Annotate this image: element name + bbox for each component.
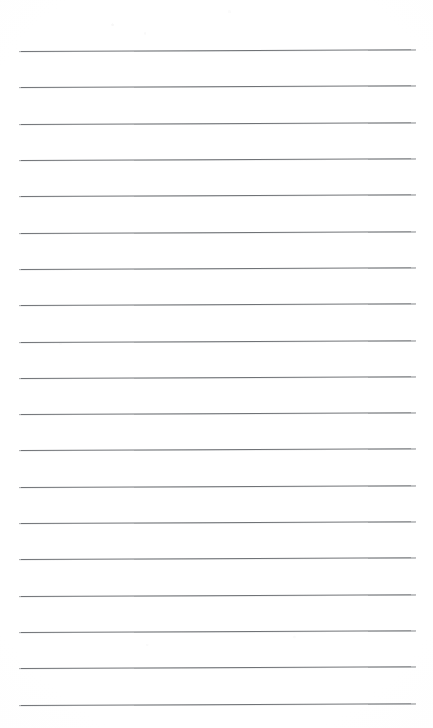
rule-line	[19, 485, 416, 488]
rule-line	[19, 231, 416, 234]
rule-line	[19, 703, 416, 706]
rule-line	[19, 667, 416, 670]
rule-line	[19, 340, 416, 343]
ruled-lines-group	[0, 0, 433, 728]
rule-line	[19, 630, 416, 633]
rule-line	[19, 86, 416, 89]
rule-line	[19, 122, 416, 125]
scanned-page	[0, 0, 433, 728]
rule-line	[19, 558, 416, 561]
rule-line	[19, 49, 416, 52]
rule-line	[19, 449, 416, 452]
rule-line	[19, 267, 416, 270]
rule-line	[19, 158, 416, 161]
rule-line	[19, 303, 416, 306]
rule-line	[19, 412, 416, 415]
rule-line	[19, 194, 416, 197]
rule-line	[19, 521, 416, 524]
rule-line	[19, 594, 416, 597]
rule-line	[19, 376, 416, 379]
